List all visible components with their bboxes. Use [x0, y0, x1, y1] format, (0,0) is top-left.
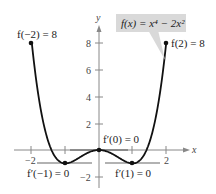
point-fp-1: [130, 161, 135, 166]
y-axis-arrow-icon: [97, 25, 102, 32]
label-f-2: f(2) = 8: [171, 37, 205, 50]
x-tick-label-neg2: −2: [25, 155, 36, 166]
function-graph: x y −2 2 8 6 4 2 −2 f(x) = x⁴: [0, 0, 216, 194]
y-axis-label: y: [95, 12, 101, 23]
y-tick-label-neg2: −2: [80, 172, 91, 183]
function-label: f(x) = x⁴ − 2x²: [121, 17, 185, 30]
label-fp-1: f′(1) = 0: [115, 167, 152, 180]
y-tick-label-2: 2: [86, 119, 91, 130]
y-tick-label-6: 6: [86, 65, 91, 76]
x-tick-label-2: 2: [164, 155, 169, 166]
x-axis-label: x: [191, 144, 197, 155]
callout-pointer: [148, 30, 165, 60]
x-axis-arrow-icon: [183, 148, 190, 153]
point-fp-0: [97, 148, 102, 153]
label-fp-0: f′(0) = 0: [103, 133, 140, 146]
label-f-neg2: f(−2) = 8: [17, 28, 57, 41]
point-f-neg2: [29, 41, 34, 46]
point-f-2: [164, 41, 169, 46]
point-fp-neg1: [63, 161, 68, 166]
label-fp-neg1: f′(−1) = 0: [27, 167, 70, 180]
y-tick-label-8: 8: [86, 38, 91, 49]
y-tick-label-4: 4: [86, 92, 91, 103]
